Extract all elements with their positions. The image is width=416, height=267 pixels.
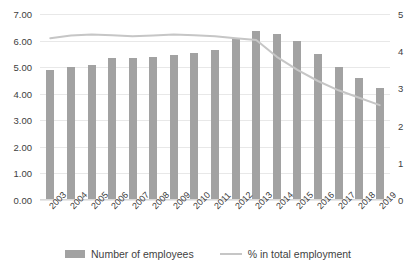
plot-area bbox=[40, 14, 390, 200]
left-axis-tick: 6.00 bbox=[14, 35, 33, 46]
left-axis-tick: 3.00 bbox=[14, 115, 33, 126]
chart-container: 0.001.002.003.004.005.006.007.00 012345 … bbox=[0, 0, 416, 267]
left-axis-tick: 4.00 bbox=[14, 88, 33, 99]
bar-swatch-icon bbox=[65, 250, 85, 258]
right-axis: 012345 bbox=[394, 14, 416, 200]
left-axis-tick: 0.00 bbox=[14, 195, 33, 206]
right-axis-tick: 1 bbox=[398, 157, 403, 168]
line-swatch-icon bbox=[220, 253, 242, 255]
right-axis-tick: 5 bbox=[398, 9, 403, 20]
legend-label: Number of employees bbox=[91, 248, 194, 260]
left-axis-tick: 1.00 bbox=[14, 168, 33, 179]
left-axis-tick: 5.00 bbox=[14, 62, 33, 73]
legend-item-number-of-employees: Number of employees bbox=[65, 248, 194, 260]
legend-item-percent-in-total-employment: % in total employment bbox=[220, 248, 351, 260]
right-axis-tick: 2 bbox=[398, 120, 403, 131]
left-axis-tick: 7.00 bbox=[14, 9, 33, 20]
line-path bbox=[50, 35, 379, 106]
left-axis-tick: 2.00 bbox=[14, 141, 33, 152]
right-axis-tick: 4 bbox=[398, 46, 403, 57]
legend-label: % in total employment bbox=[248, 248, 351, 260]
x-axis: 2003200420052006200720082009201020112012… bbox=[40, 200, 390, 238]
line-series-layer bbox=[40, 14, 390, 200]
left-axis: 0.001.002.003.004.005.006.007.00 bbox=[0, 14, 36, 200]
right-axis-tick: 0 bbox=[398, 195, 403, 206]
chart-legend: Number of employees % in total employmen… bbox=[0, 244, 416, 264]
right-axis-tick: 3 bbox=[398, 83, 403, 94]
